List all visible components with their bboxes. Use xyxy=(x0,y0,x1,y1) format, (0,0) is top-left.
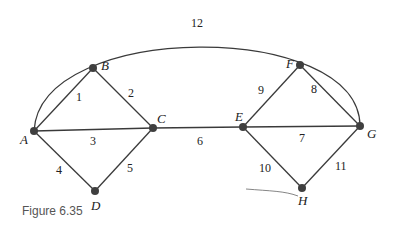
node-E xyxy=(239,123,247,131)
node-label-F: F xyxy=(285,56,295,71)
weight-label-D-C: 5 xyxy=(127,161,133,175)
edge-H-G xyxy=(302,126,360,188)
edge-E-F xyxy=(243,65,300,127)
weight-label-C-E: 6 xyxy=(197,134,203,148)
weight-label-E-G: 7 xyxy=(299,131,305,145)
weight-label-A-G: 12 xyxy=(191,16,203,30)
node-C xyxy=(149,124,157,132)
node-F xyxy=(296,61,304,69)
weight-label-H-G: 11 xyxy=(335,159,347,173)
weighted-graph: A B C D E F G H 1 2 3 4 5 6 7 8 9 10 11 … xyxy=(0,0,395,227)
weight-label-E-H: 10 xyxy=(259,161,271,175)
stray-mark xyxy=(246,189,298,196)
node-label-A: A xyxy=(19,132,28,147)
edge-E-H xyxy=(243,127,302,188)
node-label-B: B xyxy=(101,58,109,73)
node-G xyxy=(356,122,364,130)
weight-label-A-C: 3 xyxy=(90,134,96,148)
edge-A-D xyxy=(34,131,95,191)
node-label-C: C xyxy=(157,111,166,126)
node-H xyxy=(298,184,306,192)
node-D xyxy=(91,187,99,195)
weight-label-A-B: 1 xyxy=(76,90,82,104)
edge-F-G xyxy=(300,65,360,126)
node-label-H: H xyxy=(297,193,308,208)
edge-A-C xyxy=(34,128,153,131)
node-label-D: D xyxy=(90,198,101,213)
node-label-E: E xyxy=(234,109,243,124)
edge-A-B xyxy=(34,68,93,131)
weight-label-A-D: 4 xyxy=(56,163,62,177)
weight-label-E-F: 9 xyxy=(258,83,264,97)
weight-label-B-C: 2 xyxy=(128,86,134,100)
weight-label-F-G: 8 xyxy=(311,82,317,96)
node-B xyxy=(89,64,97,72)
node-A xyxy=(30,127,38,135)
figure-caption: Figure 6.35 xyxy=(22,204,83,218)
node-label-G: G xyxy=(367,126,377,141)
edge-E-G xyxy=(243,126,360,127)
edge-C-E xyxy=(153,127,243,128)
edge-D-C xyxy=(95,128,153,191)
edge-B-C xyxy=(93,68,153,128)
